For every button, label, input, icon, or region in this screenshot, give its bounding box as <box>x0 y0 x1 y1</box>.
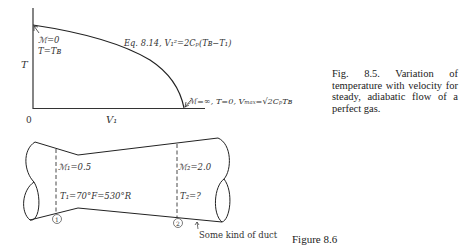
duct-label: Some kind of duct <box>199 230 278 240</box>
x-axis-label: V₁ <box>106 114 117 125</box>
start-mach-label: ℳ=0 <box>38 35 60 45</box>
station1-mach-label: ℳ₁=0.5 <box>58 162 91 172</box>
figure-8-6-caption: Figure 8.6 <box>292 233 337 245</box>
station1-temp-label: T₁=70°F=530°R <box>60 191 132 201</box>
end-point-label: ℳ=∞, T=0, Vₘₐₓ=√2CₚTʙ <box>188 96 293 106</box>
figure-canvas: T 0 V₁ ℳ=0 T=Tʙ Eq. 8.14, V₁²=2Cₚ(Tʙ−T₁)… <box>0 0 459 252</box>
equation-label: Eq. 8.14, V₁²=2Cₚ(Tʙ−T₁) <box>123 38 231 48</box>
origin-label: 0 <box>26 115 32 125</box>
station2-temp-label: T₂=? <box>180 191 201 201</box>
station2-mach-label: ℳ₂=2.0 <box>178 162 212 172</box>
start-arrow-icon <box>34 26 39 33</box>
start-temp-label: T=Tʙ <box>38 46 61 56</box>
station1-marker-label: 1 <box>55 216 59 223</box>
station2-marker-label: 2 <box>176 220 180 227</box>
duct-top-wall <box>35 138 218 155</box>
y-axis-label: T <box>21 59 29 70</box>
duct-outlet-outline <box>215 138 230 222</box>
figure-8-5-caption: Fig. 8.5. Variation of temperature with … <box>332 68 458 114</box>
duct-inlet-outline <box>24 142 39 220</box>
duct-pointer-arrow-icon <box>195 222 199 229</box>
